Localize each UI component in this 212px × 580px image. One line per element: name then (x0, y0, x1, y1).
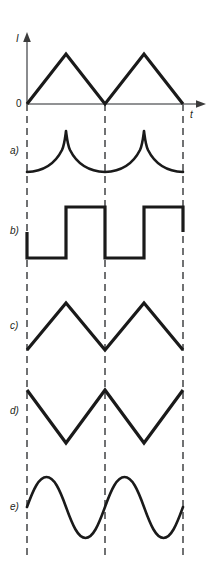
panel-c: c) (10, 303, 183, 350)
panel-b-label: b) (10, 225, 19, 236)
panel-d-label: d) (10, 405, 19, 416)
panel-a-label: a) (10, 145, 19, 156)
waveform-top-triangular (27, 54, 183, 104)
panel-e-label: e) (10, 501, 19, 512)
y-axis-arrow-icon (23, 32, 31, 42)
x-axis-arrow-icon (196, 100, 206, 108)
origin-label: 0 (16, 98, 22, 109)
panel-e: e) (10, 477, 183, 538)
panel-b: b) (10, 207, 183, 258)
y-axis-label: I (16, 33, 19, 44)
axes: I 0 t (16, 32, 206, 120)
waveform-figure: I 0 t a) b) c) d) e) (0, 0, 212, 580)
panel-a: a) (10, 131, 183, 172)
panel-c-label: c) (10, 320, 18, 331)
waveform-top-path (27, 54, 183, 104)
x-axis-label: t (190, 109, 194, 120)
panel-d: d) (10, 390, 183, 443)
waveform-b-path (27, 207, 183, 258)
